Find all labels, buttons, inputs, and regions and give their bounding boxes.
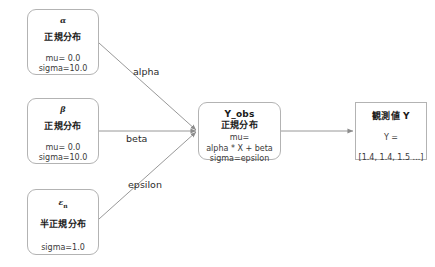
node-alpha-params: mu= 0.0 sigma=10.0 — [39, 54, 88, 75]
node-alpha-param-sigma: sigma=10.0 — [39, 64, 88, 74]
node-observed-y-title: 観測値 Y — [372, 111, 410, 122]
edge-label-beta: beta — [126, 133, 147, 144]
node-epsilon-distribution: 半正規分布 — [40, 220, 87, 229]
edge-alpha-line — [99, 43, 196, 130]
node-y-obs-param-mu-label: mu= — [206, 133, 273, 143]
node-beta-distribution: 正規分布 — [44, 122, 81, 131]
node-y-obs-title: Y_obs — [225, 109, 255, 120]
edge-epsilon-line — [99, 132, 196, 219]
node-epsilon[interactable]: εn 半正規分布 sigma=1.0 — [27, 189, 99, 255]
node-beta[interactable]: β 正規分布 mu= 0.0 sigma=10.0 — [27, 98, 99, 164]
edge-label-alpha: alpha — [133, 66, 159, 77]
node-epsilon-symbol: εn — [58, 198, 67, 209]
node-epsilon-symbol-subscript: n — [63, 202, 67, 209]
node-beta-params: mu= 0.0 sigma=10.0 — [39, 143, 88, 164]
node-epsilon-params: sigma=1.0 — [41, 243, 85, 253]
node-beta-symbol: β — [60, 105, 65, 113]
edge-label-epsilon: epsilon — [128, 179, 162, 190]
node-alpha-symbol: α — [60, 16, 66, 24]
node-alpha-param-mu: mu= 0.0 — [39, 54, 88, 64]
node-y-obs-params: mu= alpha * X + beta sigma=epsilon — [206, 133, 273, 164]
node-y-obs[interactable]: Y_obs 正規分布 mu= alpha * X + beta sigma=ep… — [198, 102, 281, 160]
node-alpha[interactable]: α 正規分布 mu= 0.0 sigma=10.0 — [27, 9, 99, 75]
node-y-obs-distribution: 正規分布 — [221, 121, 258, 130]
node-y-obs-param-mu-expr: alpha * X + beta — [206, 144, 273, 154]
node-observed-y-assignment: Y = — [384, 133, 398, 142]
node-observed-y-values: [1.4, 1.4, 1.5 ...] — [359, 153, 424, 162]
node-y-obs-param-sigma: sigma=epsilon — [206, 154, 273, 164]
node-beta-param-mu: mu= 0.0 — [39, 143, 88, 153]
node-observed-y[interactable]: 観測値 Y Y = [1.4, 1.4, 1.5 ...] — [355, 102, 427, 160]
diagram-canvas: α 正規分布 mu= 0.0 sigma=10.0 β 正規分布 mu= 0.0… — [0, 0, 435, 267]
node-epsilon-param-sigma: sigma=1.0 — [41, 243, 85, 253]
node-beta-param-sigma: sigma=10.0 — [39, 153, 88, 163]
node-alpha-distribution: 正規分布 — [44, 33, 81, 42]
